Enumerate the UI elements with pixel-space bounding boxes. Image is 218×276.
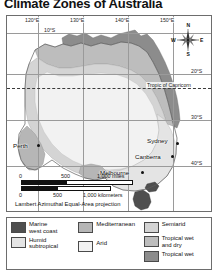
legend-label-line1: Mediterranean [96, 221, 135, 228]
legend-label-line1: Tropical wet [162, 235, 194, 242]
legend-swatch-tropical-wet [144, 251, 159, 262]
legend: Marine west coast Humid subtropical [6, 217, 212, 270]
compass-rose: N S E W [171, 22, 205, 58]
scale-seg [67, 181, 112, 184]
legend-swatch-marine-west-coast [11, 222, 26, 233]
compass-label-north: N [187, 22, 191, 28]
legend-column-2: Mediterranean Arid [78, 221, 143, 269]
legend-item-marine-west-coast: Marine west coast [11, 221, 78, 234]
scale-tick-miles-0: 0 [19, 173, 22, 179]
label-30s: 30°S [190, 114, 203, 120]
scale-ticks-miles: 0 500 1,000 miles [21, 173, 133, 180]
legend-item-arid: Arid [78, 240, 143, 252]
legend-column-3: Semiarid Tropical wet and dry Tropical w… [144, 221, 209, 269]
legend-label-line1: Tropical wet [162, 251, 194, 258]
label-120e: 120°E [24, 17, 40, 23]
legend-label-humid-subtropical: Humid subtropical [29, 237, 58, 250]
legend-item-tropical-wet: Tropical wet [144, 251, 209, 263]
legend-label-line2: and dry [162, 242, 194, 249]
page-title: Climate Zones of Australia [4, 0, 216, 11]
projection-note: Lambert Azimuthal Equal-Area projection [15, 201, 120, 207]
legend-column-1: Marine west coast Humid subtropical [11, 221, 78, 269]
legend-label-tropical-wet-and-dry: Tropical wet and dry [162, 235, 194, 248]
scale-tick-km-1000: 1,000 kilometers [83, 192, 123, 198]
parallel-20s [7, 74, 211, 75]
legend-label-line1: Humid [29, 237, 58, 244]
legend-label-line1: Semiarid [162, 221, 186, 228]
scale-seg [22, 187, 58, 190]
map-frame: 120°E 130°E 140°E 150°E 10°S 20°S 30°S 4… [6, 15, 212, 212]
label-140e: 140°E [114, 17, 130, 23]
legend-swatch-tropical-wet-and-dry [144, 236, 159, 247]
scale-tick-miles-1000: 1,000 miles [97, 173, 125, 179]
legend-item-semiarid: Semiarid [144, 221, 209, 233]
scale-tick-km-0: 0 [19, 192, 22, 198]
scale-ticks-kilometers: 0 500 1,000 kilometers [21, 192, 133, 200]
compass-label-east: E [200, 37, 203, 43]
legend-swatch-semiarid [144, 222, 159, 233]
label-130e: 130°E [69, 17, 85, 23]
legend-label-marine-west-coast: Marine west coast [29, 221, 57, 234]
scale-tick-miles-500: 500 [61, 173, 70, 179]
legend-label-line2: west coast [29, 228, 57, 235]
legend-label-mediterranean: Mediterranean [96, 221, 135, 228]
compass-label-west: W [171, 37, 176, 43]
tropic-of-capricorn-line [7, 88, 211, 89]
label-10s: 10°S [43, 27, 56, 33]
climate-map-figure: Climate Zones of Australia [0, 0, 218, 276]
zone-marine-west-coast-tasmania [133, 190, 151, 210]
compass-label-south: S [187, 51, 190, 57]
scale-bar-group: 0 500 1,000 miles 0 500 1,000 kilometers [21, 173, 133, 200]
scale-seg [22, 181, 67, 184]
legend-label-line2: subtropical [29, 243, 58, 250]
label-40s: 40°S [190, 160, 203, 166]
legend-item-humid-subtropical: Humid subtropical [11, 237, 78, 250]
legend-label-line1: Marine [29, 221, 57, 228]
city-label-canberra: Canberra [135, 153, 161, 160]
legend-item-mediterranean: Mediterranean [78, 221, 143, 233]
scale-tick-km-500: 500 [53, 192, 62, 198]
scale-bar-kilometers [21, 186, 111, 191]
city-label-perth: Perth [13, 142, 28, 149]
label-20s: 20°S [190, 68, 203, 74]
tropic-of-capricorn-label: Tropic of Capricorn [146, 82, 192, 88]
legend-label-arid: Arid [96, 240, 107, 247]
legend-swatch-humid-subtropical [11, 237, 26, 248]
city-label-sydney: Sydney [147, 137, 168, 144]
scale-bar-miles [21, 180, 133, 185]
parallel-30s [7, 120, 211, 121]
legend-label-line1: Arid [96, 240, 107, 247]
parallel-40s [7, 166, 211, 167]
legend-swatch-mediterranean [78, 222, 93, 233]
legend-item-tropical-wet-and-dry: Tropical wet and dry [144, 235, 209, 248]
legend-label-tropical-wet: Tropical wet [162, 251, 194, 258]
legend-swatch-arid [78, 241, 93, 252]
scale-seg [58, 187, 94, 190]
legend-label-semiarid: Semiarid [162, 221, 186, 228]
